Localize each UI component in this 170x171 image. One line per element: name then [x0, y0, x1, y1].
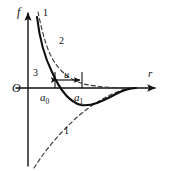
- y-axis-label: f: [17, 6, 20, 18]
- figure-canvas: [0, 0, 170, 171]
- repulsion-curve-dashed: [38, 12, 134, 88]
- curve-label-repulsion: 2: [59, 36, 64, 46]
- a0-subscript: 0: [46, 97, 50, 106]
- interatomic-force-figure: f r O 1 2 3 1 u a0 a1: [0, 0, 170, 171]
- curve-label-resultant: 3: [33, 68, 38, 78]
- displacement-label-u: u: [64, 70, 69, 80]
- curve-label-attraction: 1: [64, 126, 69, 136]
- a1-subscript: 1: [80, 97, 84, 106]
- x-axis-label: r: [148, 68, 152, 79]
- equilibrium-label-a1: a1: [74, 92, 83, 106]
- curve-label-repulsion-top: 1: [43, 8, 48, 18]
- resultant-force-curve-solid: [37, 17, 136, 105]
- origin-label: O: [12, 82, 21, 94]
- equilibrium-label-a0: a0: [40, 92, 49, 106]
